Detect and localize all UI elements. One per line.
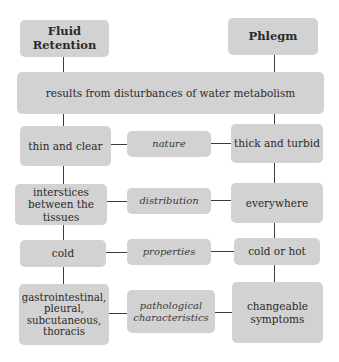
phlegm-pathology: changeable symptoms: [232, 282, 323, 343]
fluid-retention-pathology-line: gastrointestinal,: [22, 292, 107, 303]
connector-row1-mid-right: [211, 143, 231, 144]
category-properties: properties: [127, 239, 211, 265]
fluid-retention-nature-text: thin and clear: [28, 140, 102, 152]
connector-right-header-to-shared: [274, 55, 275, 72]
fluid-retention-properties-text: cold: [52, 247, 74, 259]
phlegm-nature: thick and turbid: [231, 124, 323, 163]
phlegm-distribution-text: everywhere: [246, 197, 309, 209]
category-distribution-label: distribution: [139, 195, 198, 207]
connector-row4-mid-right: [215, 312, 232, 313]
fluid-retention-pathology: gastrointestinal, pleural, subcutaneous,…: [19, 284, 109, 345]
category-properties-label: properties: [143, 246, 196, 258]
category-pathological-characteristics-line: characteristics: [133, 312, 208, 324]
phlegm-pathology-line: symptoms: [247, 313, 308, 325]
fluid-retention-distribution-line: tissues: [28, 211, 94, 223]
connector-row2-left-mid: [107, 201, 127, 202]
phlegm-pathology-line: changeable: [247, 300, 308, 312]
shared-characteristic-label: results from disturbances of water metab…: [46, 87, 296, 99]
category-pathological-characteristics-line: pathological: [133, 300, 208, 312]
category-pathological-characteristics: pathological characteristics: [127, 290, 215, 333]
connector-left-row1-to-row2: [63, 166, 64, 184]
connector-row2-mid-right: [211, 200, 231, 201]
header-phlegm-label: Phlegm: [249, 30, 298, 43]
connector-right-row2-to-row3: [274, 223, 275, 238]
header-fluid-retention-line: Retention: [33, 39, 97, 52]
category-distribution: distribution: [127, 188, 211, 214]
fluid-retention-pathology-line: subcutaneous,: [22, 315, 107, 326]
connector-right-row3-to-row4: [274, 265, 275, 282]
connector-row1-left-mid: [111, 144, 127, 145]
fluid-retention-pathology-line: pleural,: [22, 303, 107, 314]
connector-row3-left-mid: [106, 252, 127, 253]
fluid-retention-properties: cold: [20, 240, 106, 267]
connector-right-shared-to-row1: [274, 114, 275, 124]
phlegm-distribution: everywhere: [231, 183, 323, 223]
connector-right-row1-to-row2: [274, 163, 275, 183]
connector-left-row3-to-row4: [63, 267, 64, 284]
header-phlegm: Phlegm: [228, 18, 318, 55]
header-fluid-retention-line: Fluid: [33, 25, 97, 38]
connector-row3-mid-right: [211, 251, 234, 252]
header-fluid-retention: Fluid Retention: [20, 20, 109, 57]
category-nature: nature: [127, 131, 211, 157]
fluid-retention-distribution: interstices between the tissues: [15, 184, 107, 225]
connector-left-shared-to-row1: [63, 114, 64, 126]
fluid-retention-distribution-line: between the: [28, 198, 94, 210]
fluid-retention-pathology-line: thoracis: [22, 326, 107, 337]
connector-left-row2-to-row3: [63, 225, 64, 240]
connector-row4-left-mid: [109, 313, 127, 314]
fluid-retention-nature: thin and clear: [20, 126, 111, 166]
phlegm-nature-text: thick and turbid: [234, 137, 320, 149]
category-nature-label: nature: [152, 138, 186, 150]
phlegm-properties: cold or hot: [234, 238, 320, 265]
connector-left-header-to-shared: [63, 57, 64, 73]
phlegm-properties-text: cold or hot: [248, 245, 306, 257]
fluid-retention-distribution-line: interstices: [28, 186, 94, 198]
shared-characteristic-box: results from disturbances of water metab…: [17, 72, 324, 114]
